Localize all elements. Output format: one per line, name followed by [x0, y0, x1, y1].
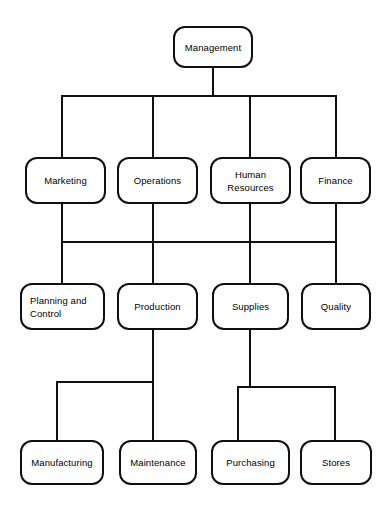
node-label-quality: Quality	[317, 300, 355, 313]
node-label-finance: Finance	[314, 174, 357, 187]
node-label-management: Management	[181, 41, 245, 54]
node-maintenance[interactable]: Maintenance	[119, 440, 197, 485]
node-stores[interactable]: Stores	[300, 440, 372, 485]
node-label-purchasing: Purchasing	[222, 456, 279, 469]
node-label-manufacturing: Manufacturing	[27, 456, 97, 469]
node-label-supplies: Supplies	[228, 300, 273, 313]
node-label-production: Production	[130, 300, 184, 313]
node-label-marketing: Marketing	[40, 174, 91, 187]
node-marketing[interactable]: Marketing	[25, 157, 106, 204]
node-manufacturing[interactable]: Manufacturing	[20, 440, 104, 485]
node-production[interactable]: Production	[117, 283, 198, 330]
node-purchasing[interactable]: Purchasing	[211, 440, 290, 485]
node-quality[interactable]: Quality	[301, 283, 371, 330]
node-operations[interactable]: Operations	[117, 157, 198, 204]
node-label-operations: Operations	[130, 174, 185, 187]
node-finance[interactable]: Finance	[300, 157, 371, 204]
node-label-planning-and-control: Planning and Control	[22, 294, 91, 320]
node-label-stores: Stores	[318, 456, 354, 469]
node-human-resources[interactable]: Human Resources	[210, 157, 291, 204]
node-label-human-resources: Human Resources	[223, 168, 277, 194]
connector-layer	[0, 0, 390, 507]
organization-chart: ManagementMarketingOperationsHuman Resou…	[0, 0, 390, 507]
node-supplies[interactable]: Supplies	[212, 283, 289, 330]
node-planning-and-control[interactable]: Planning and Control	[20, 283, 105, 330]
node-label-maintenance: Maintenance	[126, 456, 190, 469]
node-management[interactable]: Management	[173, 26, 253, 68]
